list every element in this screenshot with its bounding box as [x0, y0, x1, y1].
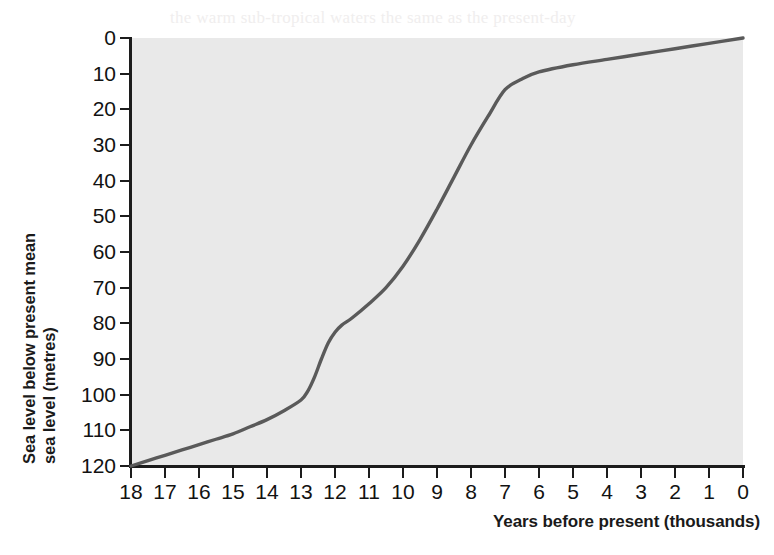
y-axis-title-line-1: Sea level below present mean — [20, 233, 39, 464]
y-tick-label: 110 — [56, 419, 116, 440]
x-tick-mark — [436, 467, 438, 478]
y-tick-mark — [120, 144, 130, 146]
x-tick-mark — [130, 467, 132, 478]
y-tick-mark — [120, 358, 130, 360]
y-tick-label: 20 — [56, 98, 116, 119]
y-tick-mark — [120, 251, 130, 253]
y-tick-labels: 0102030405060708090100110120 — [50, 0, 116, 500]
x-tick-mark — [198, 467, 200, 478]
y-tick-label: 0 — [56, 27, 116, 48]
x-axis-title: Years before present (thousands) — [0, 512, 760, 532]
y-axis-title: Sea level below present mean sea level (… — [0, 0, 56, 500]
y-tick-mark — [120, 287, 130, 289]
x-tick-mark — [538, 467, 540, 478]
ghost-line: the warm sub-tropical waters the same as… — [170, 8, 576, 28]
x-tick-mark — [402, 467, 404, 478]
x-tick-mark — [640, 467, 642, 478]
y-tick-label: 70 — [56, 277, 116, 298]
y-tick-label: 120 — [56, 455, 116, 476]
x-tick-mark — [368, 467, 370, 478]
x-tick-mark — [606, 467, 608, 478]
x-tick-mark — [504, 467, 506, 478]
x-tick-mark — [572, 467, 574, 478]
y-tick-mark — [120, 37, 130, 39]
y-tick-label: 100 — [56, 384, 116, 405]
y-tick-mark — [120, 465, 130, 467]
y-tick-mark — [120, 322, 130, 324]
x-tick-mark — [742, 467, 744, 478]
y-tick-label: 60 — [56, 241, 116, 262]
x-tick-mark — [266, 467, 268, 478]
figure-container: the warm sub-tropical waters the same as… — [0, 0, 774, 555]
x-tick-label: 0 — [723, 481, 763, 502]
y-tick-mark — [120, 108, 130, 110]
y-tick-mark — [120, 73, 130, 75]
x-tick-mark — [164, 467, 166, 478]
y-tick-label: 90 — [56, 348, 116, 369]
x-tick-mark — [708, 467, 710, 478]
y-tick-label: 50 — [56, 205, 116, 226]
y-tick-mark — [120, 429, 130, 431]
plot-area — [131, 38, 743, 466]
x-tick-mark — [300, 467, 302, 478]
x-tick-mark — [470, 467, 472, 478]
y-tick-mark — [120, 215, 130, 217]
x-tick-mark — [674, 467, 676, 478]
y-tick-label: 80 — [56, 312, 116, 333]
y-tick-label: 30 — [56, 134, 116, 155]
y-tick-mark — [120, 394, 130, 396]
y-tick-label: 40 — [56, 170, 116, 191]
y-tick-mark — [120, 180, 130, 182]
y-tick-label: 10 — [56, 63, 116, 84]
x-tick-mark — [232, 467, 234, 478]
x-tick-mark — [334, 467, 336, 478]
